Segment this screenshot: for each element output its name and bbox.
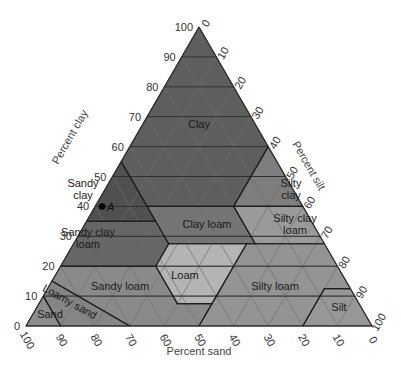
- label-sandy-loam: Sandy loam: [91, 280, 149, 292]
- point-a-label: A: [106, 201, 114, 213]
- sand-tick: 0: [367, 334, 380, 345]
- sand-tick: 30: [261, 332, 278, 349]
- clay-axis-label: Percent clay: [49, 107, 90, 166]
- clay-tick: 90: [163, 51, 175, 63]
- sand-tick: 70: [123, 332, 140, 349]
- sand-tick: 80: [88, 332, 105, 349]
- silt-tick: 100: [369, 311, 389, 333]
- label-clay: Clay: [188, 118, 211, 130]
- soil-texture-triangle: ClaySandyclaySiltyclaySandy clayloamClay…: [0, 0, 401, 369]
- clay-tick: 0: [14, 320, 20, 332]
- clay-tick: 70: [129, 111, 141, 123]
- clay-tick: 60: [112, 141, 124, 153]
- label-silty-clay: Siltyclay: [281, 177, 302, 201]
- label-clay-loam: Clay loam: [183, 218, 232, 230]
- label-silt: Silt: [331, 301, 346, 313]
- label-silty-loam: Silty loam: [251, 280, 299, 292]
- label-sand: Sand: [37, 308, 63, 320]
- clay-tick: 10: [25, 290, 37, 302]
- clay-tick: 80: [146, 81, 158, 93]
- clay-tick: 100: [175, 21, 193, 33]
- sand-tick: 20: [296, 332, 313, 349]
- sand-axis-label: Percent sand: [167, 345, 232, 357]
- sand-tick: 90: [54, 332, 71, 349]
- point-a-marker: [99, 203, 105, 209]
- sand-tick: 10: [331, 332, 348, 349]
- sand-tick: 100: [18, 329, 38, 351]
- clay-tick: 30: [60, 230, 72, 242]
- clay-tick: 20: [42, 260, 54, 272]
- silt-tick: 0: [199, 17, 212, 28]
- clay-tick: 50: [94, 171, 106, 183]
- label-loam: Loam: [171, 269, 199, 281]
- clay-tick: 40: [77, 200, 89, 212]
